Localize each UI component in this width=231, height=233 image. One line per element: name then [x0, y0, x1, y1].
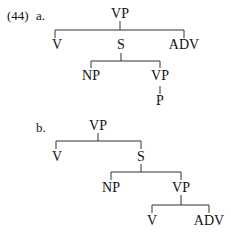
tree-b-root: VP	[89, 119, 107, 133]
tree-lines	[0, 0, 231, 233]
example-number: (44)	[7, 9, 29, 22]
tree-a-node-s: S	[117, 38, 125, 52]
tree-b-node-v2: V	[147, 214, 157, 228]
tree-b-node-vp: VP	[172, 181, 190, 195]
tree-a-node-np: NP	[82, 69, 100, 83]
tree-b-node-s: S	[137, 150, 145, 164]
tree-a-node-adv: ADV	[169, 38, 199, 52]
tree-b-label: b.	[36, 121, 46, 134]
tree-b-node-v: V	[52, 150, 62, 164]
tree-b-node-adv: ADV	[194, 214, 224, 228]
tree-a-node-v: V	[52, 38, 62, 52]
tree-b-node-np: NP	[102, 181, 120, 195]
tree-a-node-p: P	[156, 94, 164, 108]
tree-a-node-vp: VP	[151, 69, 169, 83]
tree-a-label: a.	[36, 9, 45, 22]
tree-a-root: VP	[111, 7, 129, 21]
